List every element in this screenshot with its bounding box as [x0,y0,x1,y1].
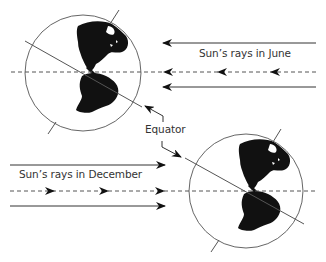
continents-americas-icon [238,139,290,231]
december-axis-south [211,240,219,252]
arrow-left-icon [217,68,227,76]
arrow-left-icon [163,68,173,76]
equator-pointer-june [145,106,163,122]
june-rays-label: Sun’s rays in June [199,47,291,59]
december-axis-north [273,129,281,142]
december-rays-label: Sun’s rays in December [19,168,142,180]
equator-pointer-december [162,141,181,157]
june-axis-north [110,10,119,24]
june-axis-south [48,122,56,134]
equator-label: Equator [145,123,186,135]
arrow-right-icon [155,187,165,195]
continents-americas-icon [76,21,128,113]
arrow-right-icon [99,187,109,195]
